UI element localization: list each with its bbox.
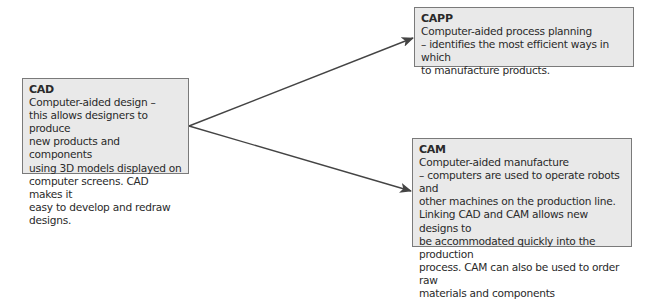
capp-description: Computer-aided process planning – identi… bbox=[421, 25, 628, 77]
capp-box: CAPP Computer-aided process planning – i… bbox=[414, 7, 634, 67]
cad-title: CAD bbox=[29, 83, 183, 96]
capp-title: CAPP bbox=[421, 12, 628, 25]
cam-description: Computer-aided manufacture – computers a… bbox=[419, 156, 626, 300]
cam-box: CAM Computer-aided manufacture – compute… bbox=[412, 138, 632, 247]
cad-box: CAD Computer-aided design – this allows … bbox=[22, 78, 189, 174]
cad-description: Computer-aided design – this allows desi… bbox=[29, 96, 183, 227]
cam-title: CAM bbox=[419, 143, 626, 156]
arrow-cad-to-capp bbox=[189, 38, 413, 126]
arrow-cad-to-cam bbox=[189, 126, 411, 191]
